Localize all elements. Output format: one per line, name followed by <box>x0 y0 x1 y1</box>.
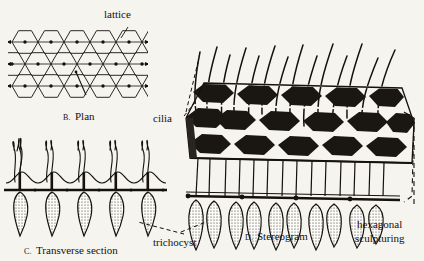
label-hexagonal-sculpturing-line1: hexagonal <box>357 218 402 230</box>
caption-plan-letter: B. <box>63 113 71 122</box>
pellicle-diagram: lattice B. Plan <box>0 0 424 261</box>
caption-stereogram-letter: D. <box>245 233 253 242</box>
caption-transverse: C. Transverse section <box>24 244 118 256</box>
caption-transverse-text: Transverse section <box>36 244 118 256</box>
label-cilia: cilia <box>153 112 172 124</box>
label-hexagonal-sculpturing-line2: sculpturing <box>355 232 405 244</box>
caption-plan-text: Plan <box>75 110 95 122</box>
caption-transverse-letter: C. <box>24 247 32 256</box>
caption-stereogram-text: Stereogram <box>257 230 308 242</box>
label-lattice: lattice <box>104 8 131 20</box>
label-trichocyst: trichocyst <box>153 236 196 248</box>
